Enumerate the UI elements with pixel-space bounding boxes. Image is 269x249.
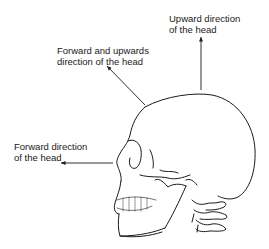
label-upward: Upward direction of the head <box>169 13 240 35</box>
label-forward-line1: Forward direction <box>14 141 87 152</box>
label-forward-line2: of the head <box>14 152 87 163</box>
forward-upward-arrow <box>107 66 145 105</box>
label-forward-upward: Forward and upwards direction of the hea… <box>57 45 149 67</box>
label-upward-line2: of the head <box>169 24 240 35</box>
skull-outline <box>114 94 255 237</box>
label-forward-upward-line1: Forward and upwards <box>57 45 149 56</box>
skull-diagram <box>0 0 269 249</box>
label-forward-upward-line2: direction of the head <box>57 56 149 67</box>
label-upward-line1: Upward direction <box>169 13 240 24</box>
label-forward: Forward direction of the head <box>14 141 87 163</box>
